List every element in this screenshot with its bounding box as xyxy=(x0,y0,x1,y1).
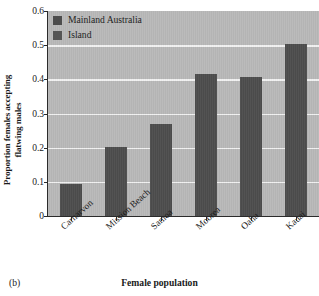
bar xyxy=(150,124,172,216)
y-tick-label: 0.2 xyxy=(22,143,44,153)
chart-figure: Proportion females accepting flatwing ma… xyxy=(0,0,319,296)
x-tick-mark xyxy=(206,217,207,221)
y-axis-tick-labels: 00.10.20.30.40.50.6 xyxy=(20,0,44,296)
gridline xyxy=(48,182,319,184)
x-tick-mark xyxy=(296,217,297,221)
y-axis-title-line1: Proportion females accepting xyxy=(2,75,13,185)
y-tick-label: 0 xyxy=(22,211,44,221)
x-tick-mark xyxy=(116,217,117,221)
gridline xyxy=(48,148,319,150)
x-tick-mark xyxy=(251,217,252,221)
y-tick-label: 0.6 xyxy=(22,6,44,16)
legend-swatch-icon xyxy=(53,16,62,25)
x-axis-title: Female population xyxy=(0,277,319,288)
legend-item: Mainland Australia xyxy=(53,13,183,27)
y-tick-mark xyxy=(44,114,48,115)
y-tick-mark xyxy=(44,182,48,183)
legend-swatch-icon xyxy=(53,31,62,40)
y-tick-label: 0.4 xyxy=(22,74,44,84)
x-tick-mark xyxy=(161,217,162,221)
y-tick-mark xyxy=(44,216,48,217)
legend-label: Island xyxy=(68,30,91,40)
y-tick-mark xyxy=(44,11,48,12)
legend-item: Island xyxy=(53,28,183,42)
bar xyxy=(285,44,307,216)
bar xyxy=(195,74,217,216)
gridline xyxy=(48,79,319,81)
x-axis-line xyxy=(47,216,319,217)
x-tick-mark xyxy=(71,217,72,221)
bar xyxy=(240,77,262,216)
y-tick-label: 0.3 xyxy=(22,109,44,119)
gridline xyxy=(48,114,319,116)
y-tick-mark xyxy=(44,148,48,149)
gridline xyxy=(48,45,319,47)
y-tick-mark xyxy=(44,79,48,80)
y-tick-mark xyxy=(44,45,48,46)
legend-label: Mainland Australia xyxy=(68,15,142,25)
chart-legend: Mainland AustraliaIsland xyxy=(53,13,183,43)
panel-label: (b) xyxy=(9,277,20,288)
y-tick-label: 0.1 xyxy=(22,177,44,187)
y-tick-label: 0.5 xyxy=(22,40,44,50)
